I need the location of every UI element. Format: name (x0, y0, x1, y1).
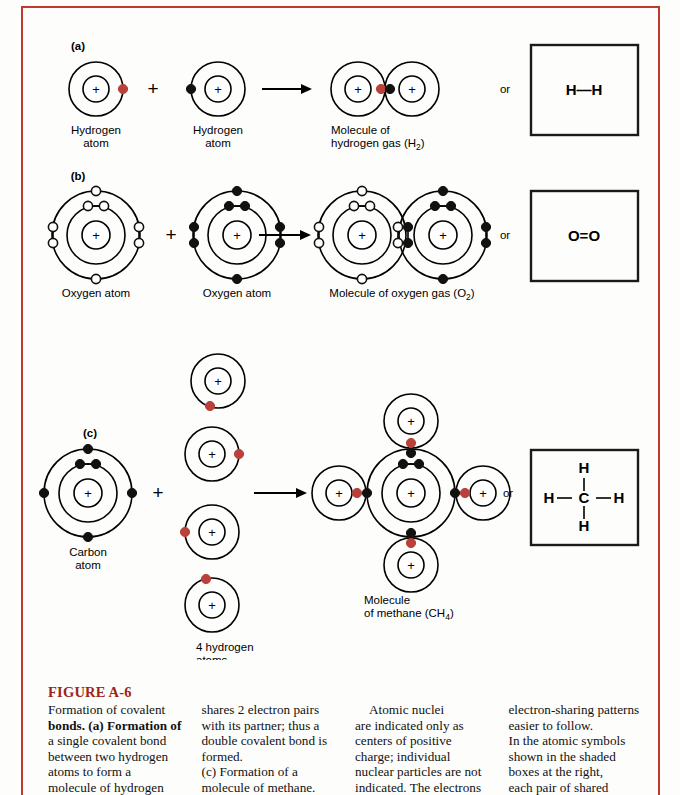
caption-line: double covalent bond is (202, 733, 342, 749)
electron-black (481, 238, 490, 247)
methane-molecule: + + + + + (312, 394, 510, 592)
nucleus-plus-icon: + (214, 374, 222, 389)
carbon-atom-label-line1: Carbon (69, 546, 107, 558)
electron-red (180, 527, 189, 536)
caption-column-4: electron-sharing patterns easier to foll… (509, 702, 649, 795)
caption-line: atoms to form a (48, 764, 188, 780)
electron-white (83, 201, 92, 210)
electron-black (232, 186, 241, 195)
hydrogen-molecule: + + (331, 62, 439, 116)
caption-line: charge; individual (355, 749, 495, 765)
nucleus-plus-icon: + (407, 486, 415, 501)
electron-white (349, 201, 358, 210)
plus-sign-b: + (165, 224, 176, 245)
caption-column-1: Formation of covalent bonds. (a) Formati… (48, 702, 188, 795)
figure-caption: FIGURE A-6 Formation of covalent bonds. … (48, 684, 648, 795)
caption-column-2: shares 2 electron pairs with its partner… (202, 702, 342, 795)
electron-black (275, 238, 284, 247)
plus-sign-a: + (147, 78, 158, 99)
nucleus-plus-icon: + (208, 447, 216, 462)
hydrogen-atom-free-4: + (185, 574, 239, 632)
caption-line: a single covalent bond (48, 733, 188, 749)
caption-line: easier to follow. (509, 718, 649, 734)
hydrogen-atom-free-2: + (185, 427, 244, 481)
electron-white (357, 274, 366, 283)
methane-label-line1: Molecule (364, 594, 410, 606)
electron-white (357, 186, 366, 195)
electron-black (39, 488, 48, 497)
plus-sign-c: + (152, 482, 163, 503)
electron-white (134, 238, 143, 247)
electron-white (314, 222, 323, 231)
figure-caption-heading: FIGURE A-6 (48, 684, 648, 701)
nucleus-plus-icon: + (208, 598, 216, 613)
electron-black (240, 201, 249, 210)
electron-black (275, 222, 284, 231)
caption-line: with its partner; thus a (202, 718, 342, 734)
nucleus-plus-icon: + (335, 486, 343, 501)
nucleus-plus-icon: + (479, 486, 487, 501)
electron-white (314, 238, 323, 247)
electron-black (446, 201, 455, 210)
caption-line: shares 2 electron pairs (202, 702, 342, 718)
carbon-atom: + (39, 444, 136, 541)
electron-white (48, 222, 57, 231)
electron-white (48, 238, 57, 247)
shared-electron-black (362, 488, 371, 497)
symbol-box-h2: H—H (531, 45, 638, 135)
electron-black (75, 459, 84, 468)
shared-electron-red (352, 488, 361, 497)
row-c-methane: (c) + Carbon atom + + + (39, 354, 638, 660)
hydrogen-atom-free-3: + (180, 505, 239, 559)
electron-black (430, 201, 439, 210)
shared-electron-black (450, 488, 459, 497)
caption-column-3: Atomic nuclei are indicated only as cent… (355, 702, 495, 795)
shared-electron-red (406, 438, 415, 447)
methane-label-line2: of methane (CH4) (364, 607, 454, 622)
electron-black (186, 84, 195, 93)
symbol-h-left: H (544, 489, 555, 506)
symbol-box-o2: O=O (531, 191, 638, 281)
electron-white (365, 201, 374, 210)
caption-line: boxes at the right, (509, 764, 649, 780)
electron-white (91, 274, 100, 283)
electron-black (232, 274, 241, 283)
shared-electron-red (376, 84, 385, 93)
electron-red (234, 449, 243, 458)
hydrogen-atom-1: + (69, 62, 128, 116)
nucleus-plus-icon: + (92, 82, 100, 97)
symbol-h-top: H (579, 459, 590, 476)
panel-label-b: (b) (71, 170, 86, 182)
electron-red (118, 84, 127, 93)
hydrogen-atom-2-label-line2: atom (205, 137, 231, 149)
electron-black (438, 274, 447, 283)
electron-black (398, 459, 407, 468)
caption-line: are indicated only as (355, 718, 495, 734)
caption-line: In the atomic symbols (509, 733, 649, 749)
caption-line: each pair of shared (509, 780, 649, 795)
nucleus-plus-icon: + (92, 228, 100, 243)
hydrogen-atom-free-1: + (191, 354, 245, 411)
shared-electron-black (406, 528, 415, 537)
covalent-bond-diagram: (a) + Hydrogen atom + + Hydrogen atom (0, 0, 680, 660)
hydrogen-atom-2: + (186, 62, 245, 116)
shared-electron-red (406, 538, 415, 547)
symbol-o-o: O=O (568, 227, 600, 244)
caption-line: electron-sharing patterns (509, 702, 649, 718)
symbol-h-bottom: H (579, 517, 590, 534)
electron-black (481, 222, 490, 231)
oxygen-molecule: + + (314, 186, 490, 283)
electron-black (189, 222, 198, 231)
oxygen-atom-2-label: Oxygen atom (203, 287, 271, 299)
or-label-a: or (500, 83, 510, 95)
row-b-oxygen: (b) + Oxygen atom + (48, 170, 638, 302)
electron-black (414, 459, 423, 468)
hydrogen-atom-1-label-line2: atom (83, 137, 109, 149)
symbol-box-ch4: H H C H H (531, 450, 638, 545)
nucleus-plus-icon: + (408, 82, 416, 97)
shared-electron-black (406, 448, 415, 457)
electron-black (224, 201, 233, 210)
electron-black (83, 532, 92, 541)
nucleus-plus-icon: + (84, 486, 92, 501)
nucleus-plus-icon: + (439, 228, 447, 243)
